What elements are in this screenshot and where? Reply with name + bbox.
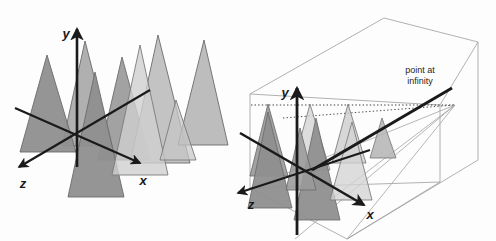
axis-label-z: z	[247, 197, 255, 212]
point-at-infinity-line1: point at	[405, 65, 435, 75]
point-at-infinity-annotation: point at infinity	[405, 65, 435, 86]
axis-label-x: x	[365, 207, 374, 222]
axis-label-y: y	[61, 26, 70, 41]
axis-label-z: z	[19, 176, 27, 191]
axis-label-x: x	[138, 173, 147, 188]
figure-canvas: y z x	[0, 0, 496, 241]
point-at-infinity-line2: infinity	[407, 76, 433, 86]
axis-label-y: y	[280, 85, 289, 100]
figure-root: y z x	[0, 0, 496, 241]
